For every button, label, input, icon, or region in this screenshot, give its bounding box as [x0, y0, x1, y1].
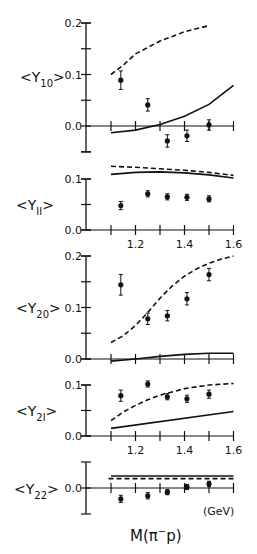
svg-text:<Y10>: <Y10> [20, 69, 65, 89]
y-tick-label: 0.1 [65, 69, 83, 82]
svg-text:<Y2I>: <Y2I> [16, 403, 57, 423]
data-point [165, 394, 170, 399]
y-tick-label: 0.1 [65, 302, 83, 315]
data-point [165, 138, 170, 143]
panels: 0.00.10.20.00.11.21.41.60.00.10.20.00.11… [65, 17, 243, 514]
data-point [118, 78, 123, 83]
x-tick-label: 1.2 [127, 444, 145, 457]
data-point [206, 196, 211, 201]
y-tick-label: 0.1 [65, 379, 83, 392]
data-point [145, 191, 150, 196]
dashed-curve [111, 256, 234, 343]
panel-2: 0.00.11.21.41.6 [65, 166, 243, 251]
dashed-curve [111, 166, 234, 175]
x-tick-label: 1.6 [225, 444, 243, 457]
svg-text:<Y20>: <Y20> [16, 300, 61, 320]
data-point [165, 313, 170, 318]
data-point [184, 484, 189, 489]
y-tick-label: 0.2 [65, 17, 83, 30]
data-point [145, 493, 150, 498]
data-point [184, 296, 189, 301]
data-point [206, 272, 211, 277]
y-tick-label: 0.0 [65, 120, 83, 133]
data-point [206, 122, 211, 127]
solid-curve [111, 353, 234, 361]
data-point [145, 102, 150, 107]
ylabel-y11: <YII> [16, 197, 54, 217]
data-point [145, 316, 150, 321]
data-point [118, 393, 123, 398]
panel-4: 0.00.11.21.41.6 [65, 379, 243, 457]
panel-3: 0.00.10.2 [65, 250, 234, 366]
data-point [118, 203, 123, 208]
dashed-curve [111, 26, 209, 75]
x-tick-label: 1.6 [225, 238, 243, 251]
ylabel-y22: <Y22> [14, 481, 59, 501]
ylabel-y10: <Y10> [20, 69, 65, 89]
data-point [165, 490, 170, 495]
data-point [206, 481, 211, 486]
ylabel-y20: <Y20> [16, 300, 61, 320]
x-axis-label: M(π−p) [130, 526, 182, 545]
x-tick-label: 1.4 [176, 444, 194, 457]
y-tick-label: 0.2 [65, 250, 83, 263]
data-point [184, 195, 189, 200]
svg-text:<YII>: <YII> [16, 197, 54, 217]
svg-text:<Y22>: <Y22> [14, 481, 59, 501]
y-tick-label: 0.0 [65, 430, 83, 443]
dashed-curve [111, 384, 234, 421]
data-point [118, 282, 123, 287]
y-tick-label: 0.0 [65, 482, 83, 495]
data-point [145, 381, 150, 386]
figure: 0.00.10.20.00.11.21.41.60.00.10.20.00.11… [0, 0, 257, 554]
x-tick-label: 1.2 [127, 238, 145, 251]
data-point [184, 396, 189, 401]
y-tick-label: 0.0 [65, 353, 83, 366]
x-axis-unit: (GeV) [203, 505, 234, 518]
x-tick-label: 1.4 [176, 238, 194, 251]
ylabel-y21: <Y2I> [16, 403, 57, 423]
data-point [165, 194, 170, 199]
panel-1: 0.00.10.2 [65, 17, 234, 152]
solid-curve [111, 412, 234, 429]
data-point [118, 496, 123, 501]
data-point [184, 133, 189, 138]
y-tick-label: 0.1 [65, 173, 83, 186]
y-tick-label: 0.0 [65, 224, 83, 237]
data-point [206, 392, 211, 397]
